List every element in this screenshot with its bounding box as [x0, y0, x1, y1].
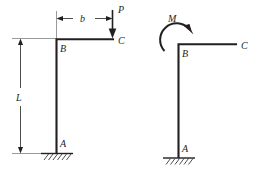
point-label-a-right: A	[181, 143, 189, 154]
moment-label-m: M	[167, 13, 177, 24]
frame-member-left	[57, 39, 114, 152]
point-label-b-right: B	[182, 48, 188, 59]
support-hatching-right	[166, 159, 193, 165]
point-label-c-right: C	[241, 40, 248, 51]
point-label-b-left: B	[60, 43, 66, 54]
dimension-label-l: L	[15, 92, 22, 103]
point-label-c-left: C	[118, 35, 125, 46]
dimension-arrow-b-left	[57, 16, 64, 21]
support-hatching-left	[44, 154, 71, 160]
left-frame-group: b L P B A C	[12, 4, 125, 160]
point-label-a-left: A	[59, 138, 67, 149]
frame-member-right	[179, 44, 237, 157]
dimension-label-b: b	[80, 13, 85, 24]
structural-diagram-pair: b L P B A C	[0, 0, 258, 173]
right-frame-group: M B A C	[160, 13, 248, 165]
load-arrow-head-p	[109, 29, 117, 39]
load-label-p: P	[117, 4, 124, 15]
moment-arrow-head-m	[184, 24, 194, 35]
dimension-arrow-b-right	[106, 16, 113, 21]
moment-arc-m	[160, 23, 189, 51]
dimension-arrow-l-top	[18, 39, 23, 46]
dimension-arrow-l-bottom	[18, 147, 23, 154]
figure-canvas: b L P B A C	[0, 0, 258, 173]
